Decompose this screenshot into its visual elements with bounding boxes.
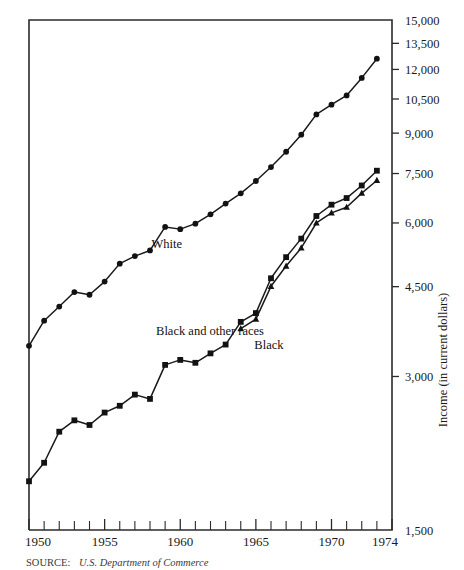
square-marker-icon bbox=[56, 429, 62, 435]
x-axis: 195019551960196519701974 bbox=[25, 519, 399, 549]
x-tick-label: 1950 bbox=[25, 534, 51, 549]
x-tick-label: 1974 bbox=[372, 534, 399, 549]
circle-marker-icon bbox=[41, 318, 47, 324]
source-key-label: SOURCE: bbox=[26, 557, 70, 568]
circle-marker-icon bbox=[132, 253, 138, 259]
square-marker-icon bbox=[102, 410, 108, 416]
x-tick-label: 1965 bbox=[243, 534, 269, 549]
square-marker-icon bbox=[208, 350, 214, 356]
circle-marker-icon bbox=[344, 93, 350, 99]
square-marker-icon bbox=[283, 254, 289, 260]
triangle-marker-icon bbox=[253, 316, 260, 322]
series-label-black-and-other-races: Black and other races bbox=[156, 324, 264, 338]
square-marker-icon bbox=[313, 213, 319, 219]
y-tick-label: 13,500 bbox=[405, 37, 439, 51]
circle-marker-icon bbox=[162, 224, 168, 230]
y-tick-label: 1,500 bbox=[405, 524, 433, 538]
series-line bbox=[241, 180, 377, 328]
data-series-group bbox=[26, 56, 380, 484]
plot-frame bbox=[29, 20, 392, 530]
square-marker-icon bbox=[71, 417, 77, 423]
square-marker-icon bbox=[374, 168, 380, 174]
circle-marker-icon bbox=[117, 261, 123, 267]
x-tick-label: 1970 bbox=[319, 534, 345, 549]
square-marker-icon bbox=[344, 195, 350, 201]
square-marker-icon bbox=[192, 360, 198, 366]
x-tick-label: 1955 bbox=[92, 534, 118, 549]
y-axis: 15,00013,50012,00010,5009,0007,5006,0004… bbox=[392, 14, 439, 538]
circle-marker-icon bbox=[102, 279, 108, 285]
y-axis-title: Income (in current dollars) bbox=[436, 293, 450, 427]
y-tick-label: 12,000 bbox=[405, 63, 439, 77]
circle-marker-icon bbox=[268, 164, 274, 170]
circle-marker-icon bbox=[238, 190, 244, 196]
series-white bbox=[26, 56, 380, 349]
series-line bbox=[29, 59, 377, 346]
chart-figure: 15,00013,50012,00010,5009,0007,5006,0004… bbox=[0, 0, 464, 570]
circle-marker-icon bbox=[26, 343, 32, 349]
y-tick-label: 15,000 bbox=[405, 14, 439, 28]
square-marker-icon bbox=[298, 236, 304, 242]
y-tick-label: 3,000 bbox=[405, 370, 433, 384]
y-tick-label: 9,000 bbox=[405, 127, 433, 141]
series-label-black: Black bbox=[254, 338, 284, 352]
circle-marker-icon bbox=[192, 221, 198, 227]
circle-marker-icon bbox=[359, 75, 365, 81]
circle-marker-icon bbox=[71, 289, 77, 295]
square-marker-icon bbox=[26, 478, 32, 484]
square-marker-icon bbox=[359, 183, 365, 189]
square-marker-icon bbox=[268, 275, 274, 281]
square-marker-icon bbox=[223, 342, 229, 348]
triangle-marker-icon bbox=[374, 177, 381, 183]
y-tick-label: 7,500 bbox=[405, 167, 433, 181]
circle-marker-icon bbox=[374, 56, 380, 62]
circle-marker-icon bbox=[329, 102, 335, 108]
income-by-race-line-chart: 15,00013,50012,00010,5009,0007,5006,0004… bbox=[0, 0, 464, 570]
square-marker-icon bbox=[117, 403, 123, 409]
square-marker-icon bbox=[132, 392, 138, 398]
source-note: SOURCE: U.S. Department of Commerce bbox=[26, 557, 209, 568]
square-marker-icon bbox=[87, 422, 93, 428]
square-marker-icon bbox=[329, 202, 335, 208]
y-tick-label: 6,000 bbox=[405, 216, 433, 230]
circle-marker-icon bbox=[87, 292, 93, 298]
circle-marker-icon bbox=[56, 304, 62, 310]
series-label-white: White bbox=[152, 237, 183, 251]
x-tick-label: 1960 bbox=[167, 534, 193, 549]
circle-marker-icon bbox=[177, 226, 183, 232]
circle-marker-icon bbox=[298, 132, 304, 138]
circle-marker-icon bbox=[223, 201, 229, 207]
y-tick-label: 4,500 bbox=[405, 280, 433, 294]
square-marker-icon bbox=[162, 362, 168, 368]
circle-marker-icon bbox=[283, 149, 289, 155]
source-text: U.S. Department of Commerce bbox=[79, 557, 209, 568]
circle-marker-icon bbox=[253, 178, 259, 184]
svg-text:SOURCE: U.S. Departmen: SOURCE: U.S. Department of Commerce bbox=[26, 557, 209, 568]
square-marker-icon bbox=[177, 357, 183, 363]
square-marker-icon bbox=[147, 396, 153, 402]
circle-marker-icon bbox=[313, 112, 319, 118]
square-marker-icon bbox=[41, 460, 47, 466]
circle-marker-icon bbox=[208, 211, 214, 217]
y-tick-label: 10,500 bbox=[405, 93, 439, 107]
